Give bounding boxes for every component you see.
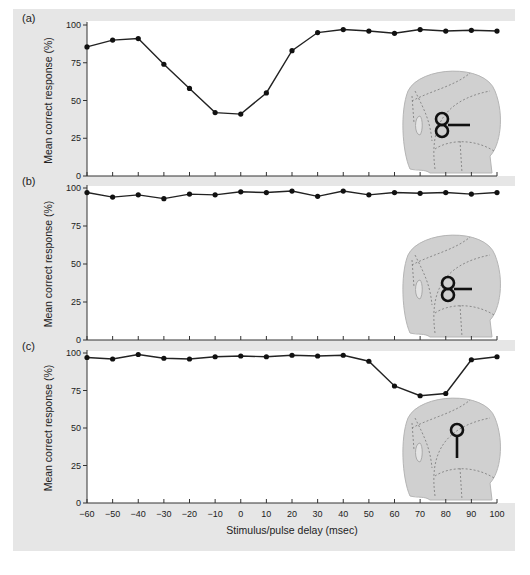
- data-point: [264, 190, 269, 195]
- data-point: [418, 191, 423, 196]
- data-point: [187, 86, 192, 91]
- data-point: [213, 110, 218, 115]
- y-tick-label: 100: [66, 183, 81, 193]
- y-axis-title: Mean correct response (%): [42, 37, 54, 164]
- data-point: [289, 353, 294, 358]
- x-tick-label: 30: [313, 509, 323, 519]
- x-tick-label: −40: [131, 509, 146, 519]
- x-tick-label: 50: [364, 509, 374, 519]
- data-point: [84, 190, 89, 195]
- y-tick-label: 50: [71, 259, 81, 269]
- data-point: [110, 38, 115, 43]
- data-point: [392, 31, 397, 36]
- y-axis-title: Mean correct response (%): [42, 365, 54, 492]
- x-axis-title: Stimulus/pulse delay (msec): [226, 524, 357, 536]
- panel-label: (c): [22, 340, 35, 352]
- x-tick-label: −10: [207, 509, 222, 519]
- data-point: [289, 188, 294, 193]
- data-point: [418, 393, 423, 398]
- x-tick-label: −60: [79, 509, 94, 519]
- data-point: [443, 391, 448, 396]
- y-tick-label: 75: [71, 221, 81, 231]
- data-point: [264, 90, 269, 95]
- data-point: [187, 356, 192, 361]
- data-point: [136, 36, 141, 41]
- data-point: [469, 357, 474, 362]
- data-point: [161, 196, 166, 201]
- panel-a: 0255075100Mean correct response (%)(a): [22, 12, 515, 181]
- data-point: [341, 353, 346, 358]
- data-point: [341, 27, 346, 32]
- data-point: [238, 353, 243, 358]
- y-tick-label: 0: [76, 171, 81, 181]
- x-tick-label: 90: [466, 509, 476, 519]
- x-tick-label: 100: [489, 509, 504, 519]
- x-tick-label: −50: [105, 509, 120, 519]
- data-point: [289, 48, 294, 53]
- data-point: [341, 188, 346, 193]
- data-point: [366, 359, 371, 364]
- x-tick-label: −30: [156, 509, 171, 519]
- y-tick-label: 75: [71, 386, 81, 396]
- data-point: [264, 354, 269, 359]
- data-point: [110, 195, 115, 200]
- panel-c: 0255075100−60−50−40−30−20−10010203040506…: [22, 340, 515, 519]
- data-point: [315, 194, 320, 199]
- x-tick-label: 20: [287, 509, 297, 519]
- data-point: [494, 190, 499, 195]
- y-tick-label: 100: [66, 20, 81, 30]
- y-tick-label: 25: [71, 297, 81, 307]
- data-point: [443, 190, 448, 195]
- x-tick-label: 10: [261, 509, 271, 519]
- x-tick-label: 70: [415, 509, 425, 519]
- data-point: [315, 353, 320, 358]
- x-tick-label: −20: [182, 509, 197, 519]
- data-point: [443, 28, 448, 33]
- data-point: [366, 28, 371, 33]
- data-point: [392, 190, 397, 195]
- data-point: [136, 352, 141, 357]
- panel-label: (b): [22, 175, 35, 187]
- panel-b: 0255075100Mean correct response (%)(b): [22, 175, 515, 345]
- data-point: [366, 192, 371, 197]
- data-point: [418, 27, 423, 32]
- y-tick-label: 25: [71, 461, 81, 471]
- data-point: [315, 30, 320, 35]
- data-point: [187, 191, 192, 196]
- panel-label: (a): [22, 12, 35, 24]
- y-axis-title: Mean correct response (%): [42, 201, 54, 328]
- data-point: [110, 356, 115, 361]
- data-point: [213, 354, 218, 359]
- data-point: [469, 191, 474, 196]
- y-tick-label: 25: [71, 133, 81, 143]
- data-point: [469, 28, 474, 33]
- data-point: [238, 189, 243, 194]
- data-point: [494, 28, 499, 33]
- data-point: [161, 62, 166, 67]
- head-illustration-icon: [403, 235, 501, 337]
- head-illustration-icon: [403, 398, 501, 500]
- data-point: [84, 44, 89, 49]
- data-point: [161, 356, 166, 361]
- y-tick-label: 100: [66, 348, 81, 358]
- x-tick-label: 40: [338, 509, 348, 519]
- y-tick-label: 0: [76, 335, 81, 345]
- data-point: [238, 111, 243, 116]
- y-tick-label: 0: [76, 498, 81, 508]
- data-point: [136, 192, 141, 197]
- y-tick-label: 50: [71, 96, 81, 106]
- x-tick-label: 60: [389, 509, 399, 519]
- data-point: [494, 354, 499, 359]
- figure-chart: 0255075100Mean correct response (%)(a)02…: [0, 0, 530, 575]
- data-point: [84, 355, 89, 360]
- head-illustration-icon: [403, 71, 501, 173]
- data-point: [392, 383, 397, 388]
- x-tick-label: 80: [441, 509, 451, 519]
- y-tick-label: 75: [71, 58, 81, 68]
- x-tick-label: 0: [238, 509, 243, 519]
- y-tick-label: 50: [71, 423, 81, 433]
- data-point: [213, 192, 218, 197]
